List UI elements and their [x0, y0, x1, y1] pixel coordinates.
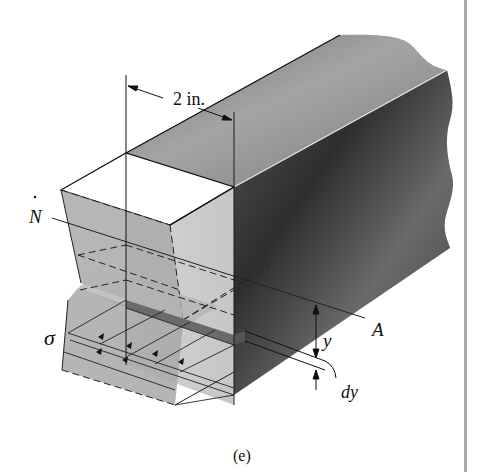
neutral-axis-label-a: A: [372, 320, 384, 339]
distance-label-y: y: [323, 331, 331, 350]
stress-label-sigma: σ: [44, 327, 55, 349]
dimension-label-2in: 2 in.: [173, 90, 205, 108]
figure-caption: (e): [233, 448, 251, 464]
neutral-axis-label-n: N: [29, 207, 42, 226]
page-margin-bar: [464, 0, 467, 472]
beam-stress-diagram: 2 in. N A σ y dy (e): [0, 0, 487, 472]
thickness-label-dy: dy: [341, 383, 358, 401]
beam-drawing: [0, 0, 487, 472]
